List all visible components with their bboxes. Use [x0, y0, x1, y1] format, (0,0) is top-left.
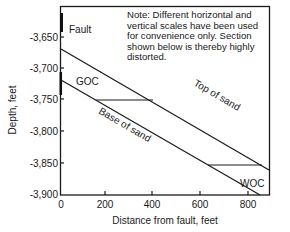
- woc-label: WOC: [240, 178, 264, 189]
- top-of-sand-label: Top of sand: [192, 77, 242, 113]
- y-tick-label: -3,750: [30, 94, 59, 105]
- note-line: distorted.: [127, 51, 166, 62]
- base-of-sand-label: Base of sand: [97, 105, 153, 144]
- fault-label: Fault: [69, 24, 91, 35]
- y-axis-title: Depth, feet: [7, 85, 18, 134]
- note-line: vertical scales have been used: [127, 20, 258, 31]
- note-line: for convenience only. Section: [127, 30, 252, 41]
- y-tick-label: -3,650: [30, 32, 59, 43]
- scale-note: Note: Different horizontal and vertical …: [127, 9, 258, 62]
- x-tick-label: 0: [58, 199, 64, 210]
- y-tick-label: -3,800: [30, 126, 59, 137]
- goc-label: GOC: [76, 76, 99, 87]
- cross-section-diagram: -3,650 -3,700 -3,750 -3,800 -3,850 -3,90…: [0, 0, 290, 232]
- x-axis-title: Distance from fault, feet: [112, 215, 218, 226]
- y-tick-label: -3,700: [30, 63, 59, 74]
- y-tick-label: -3,900: [30, 189, 59, 200]
- x-tick-label: 600: [192, 199, 209, 210]
- x-tick-label: 800: [240, 199, 257, 210]
- note-line: shown below is thereby highly: [127, 41, 255, 52]
- x-tick-label: 400: [144, 199, 161, 210]
- x-tick-label: 200: [97, 199, 114, 210]
- y-tick-label: -3,850: [30, 158, 59, 169]
- note-line: Note: Different horizontal and: [127, 9, 252, 20]
